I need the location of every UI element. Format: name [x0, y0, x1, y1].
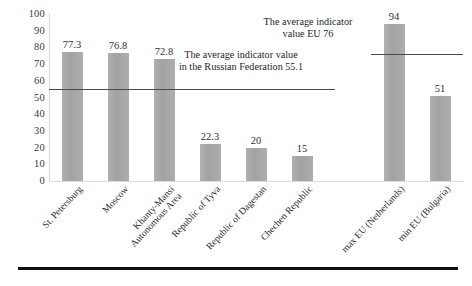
y-axis-tick-30: 30 — [1, 126, 45, 136]
bottom-divider-rule — [18, 267, 458, 270]
y-axis-tick-60: 60 — [1, 76, 45, 86]
annotation-eu-average: The average indicatorvalue EU 76 — [249, 16, 367, 40]
x-axis-category-label: Khanty-MansiAutonomous Area — [121, 184, 184, 249]
y-axis-tick-10: 10 — [1, 159, 45, 169]
bar — [62, 52, 83, 181]
bar-value-label: 51 — [410, 83, 470, 94]
reference-line-eu-average — [371, 54, 463, 55]
bar — [384, 24, 405, 181]
bar-value-label: 94 — [364, 11, 424, 22]
x-axis-category-label: Moscow — [100, 184, 130, 215]
bar — [246, 148, 267, 181]
x-axis-category-label: max EU (Netherlands) — [340, 184, 407, 255]
annotation-russian-federation-average: The average indicator valuein the Russia… — [167, 49, 315, 73]
x-axis-category-label-line: St. Petersburg — [40, 184, 84, 230]
x-axis-category-label: St. Petersburg — [40, 184, 84, 230]
bar — [108, 53, 129, 181]
y-axis-tick-100: 100 — [1, 9, 45, 19]
bar — [200, 144, 221, 181]
bar — [292, 156, 313, 181]
x-axis-category-label-line: max EU (Netherlands) — [340, 184, 407, 255]
x-axis-line — [49, 181, 463, 182]
bar — [430, 96, 451, 181]
y-axis-tick-labels: 1009080706050403020100 — [0, 14, 45, 181]
y-axis-tick-80: 80 — [1, 42, 45, 52]
annotation-line-1: The average indicator — [249, 16, 367, 28]
y-axis-tick-70: 70 — [1, 59, 45, 69]
y-axis-tick-20: 20 — [1, 143, 45, 153]
x-axis-category-labels: St. PetersburgMoscowKhanty-MansiAutonomo… — [0, 184, 472, 264]
x-axis-category-label-line: Moscow — [100, 184, 130, 215]
y-axis-tick-40: 40 — [1, 109, 45, 119]
annotation-line-1: The average indicator value — [167, 49, 315, 61]
bar — [154, 59, 175, 181]
y-axis-tick-90: 90 — [1, 26, 45, 36]
y-axis-tick-50: 50 — [1, 93, 45, 103]
bar-chart: 1009080706050403020100 77.376.872.822.32… — [0, 0, 472, 286]
annotation-line-2: in the Russian Federation 55.1 — [167, 61, 315, 73]
annotation-line-2: value EU 76 — [249, 28, 367, 40]
reference-line-russian-federation-average — [49, 89, 335, 90]
bar-value-label: 15 — [272, 143, 332, 154]
